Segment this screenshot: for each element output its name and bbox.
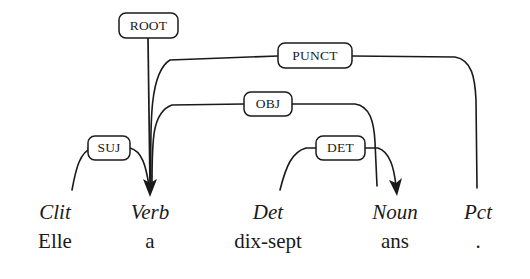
- label-punct[interactable]: PUNCT: [278, 43, 352, 68]
- label-punct-text: PUNCT: [292, 48, 338, 63]
- word-3: dix-sept: [234, 229, 302, 253]
- label-obj-text: OBJ: [256, 96, 281, 111]
- word-1: Elle: [38, 229, 72, 253]
- word-5: .: [475, 229, 480, 253]
- label-det-text: DET: [327, 140, 354, 155]
- word-2: a: [145, 229, 155, 253]
- label-det[interactable]: DET: [316, 136, 365, 160]
- punct-edge: [151, 56, 477, 188]
- label-suj[interactable]: SUJ: [88, 136, 130, 160]
- pos-tag-5: Pct: [463, 200, 493, 224]
- word-4: ans: [381, 229, 409, 253]
- pos-tag-3: Det: [252, 200, 284, 224]
- pos-tag-2: Verb: [131, 200, 170, 224]
- pos-tag-1: Clit: [39, 200, 72, 224]
- label-suj-text: SUJ: [97, 140, 120, 155]
- root-edge: [148, 38, 150, 186]
- pos-tag-4: Noun: [371, 200, 418, 224]
- label-root[interactable]: ROOT: [119, 13, 178, 38]
- label-root-text: ROOT: [130, 18, 168, 33]
- dependency-parse-diagram: ROOT PUNCT OBJ SUJ DET Clit Elle Verb a …: [0, 0, 530, 279]
- label-obj[interactable]: OBJ: [244, 92, 292, 116]
